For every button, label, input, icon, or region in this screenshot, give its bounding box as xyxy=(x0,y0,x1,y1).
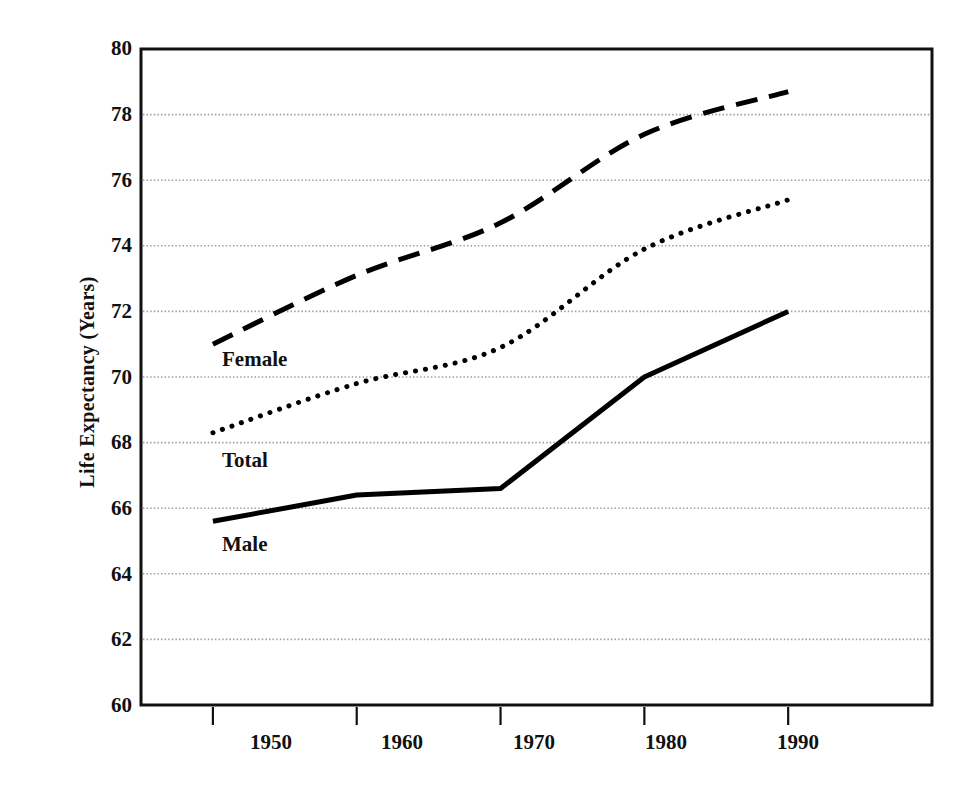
series-line-female xyxy=(213,92,788,345)
series-line-total xyxy=(213,200,788,433)
chart-figure: Life Expectancy (Years) 80 78 76 74 72 7… xyxy=(0,0,963,785)
data-series-group xyxy=(213,92,788,522)
plot-area xyxy=(0,0,963,785)
gridlines-group xyxy=(143,115,930,640)
x-tick-marks xyxy=(213,707,788,725)
series-line-male xyxy=(213,311,788,521)
